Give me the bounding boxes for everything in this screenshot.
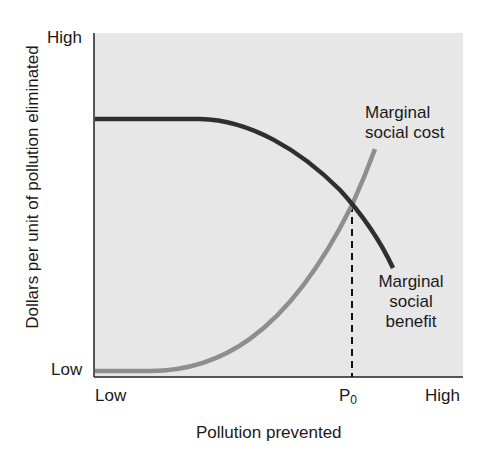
y-tick-low: Low [51, 360, 82, 380]
y-tick-high: High [47, 28, 82, 48]
msc-label: Marginal social cost [365, 103, 444, 143]
marginal-social-benefit-curve [95, 119, 393, 268]
msb-label-line1: Marginal [361, 272, 461, 292]
p0-main: P [339, 386, 350, 405]
msb-label-line2: social [361, 292, 461, 312]
x-axis-title: Pollution prevented [196, 423, 342, 443]
y-axis-title: Dollars per unit of pollution eliminated [23, 24, 43, 350]
msb-label-line3: benefit [361, 312, 461, 332]
x-tick-high: High [425, 386, 460, 406]
p0-subscript: 0 [350, 393, 357, 407]
chart-svg [0, 0, 493, 467]
x-tick-p0: P0 [339, 386, 357, 410]
msb-label: Marginal social benefit [361, 272, 461, 332]
x-tick-low: Low [95, 386, 126, 406]
msc-label-line1: Marginal [365, 103, 444, 123]
msc-label-line2: social cost [365, 123, 444, 143]
